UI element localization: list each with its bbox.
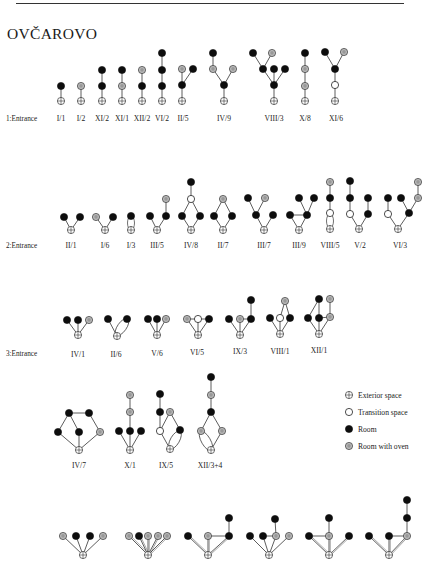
oven-node-icon [178,65,185,72]
oven-node-icon [403,532,410,539]
access-graph: IV/8 [178,178,203,250]
room-node-icon [156,408,163,415]
transition-node-icon [326,209,333,216]
access-graph: III/7 [244,194,276,250]
graph-label: IV/1 [71,350,85,359]
graph-label: VIII/3 [265,114,284,123]
exterior-node-icon [325,551,332,558]
exterior-node-icon [331,97,338,104]
room-node-icon [138,82,145,89]
legend: Exterior spaceTransition spaceRoomRoom w… [345,391,408,451]
transition-node-icon [331,81,338,88]
access-graph: VI/2 [155,49,169,123]
graph-edges [369,500,408,556]
exterior-node-icon [219,226,226,233]
room-node-icon [127,212,134,219]
oven-node-icon [96,428,103,435]
legend-item-transition: Transition space [345,408,408,417]
room-node-icon [304,314,311,321]
access-graph: VI/5 [183,315,212,357]
room-node-icon [156,390,163,397]
oven-node-icon [163,532,170,539]
room-node-icon [158,82,165,89]
oven-node-icon [272,532,279,539]
access-graph [59,532,106,558]
exterior-node-icon [74,331,81,338]
oven-node-icon [183,315,190,322]
graph-edges [388,182,418,229]
room-node-icon [109,213,116,220]
room-node-icon [246,532,253,539]
room-node-icon [158,66,165,73]
room-node-icon [207,373,214,380]
room-node-icon [54,428,61,435]
legend-item-oven: Room with oven [345,442,408,451]
room-node-icon [196,212,203,219]
transition-node-icon [346,210,353,217]
legend-label: Room [358,425,377,434]
exterior-node-icon [79,551,86,558]
oven-node-icon [162,195,169,202]
room-node-icon [178,81,185,88]
access-graph: X/8 [299,49,311,123]
graph-label: II/6 [111,350,122,359]
graph-label: VIII/1 [271,347,290,356]
access-graph [365,496,410,558]
room-node-icon [270,81,277,88]
graph-label: VI/2 [155,114,169,123]
room-node-icon [259,65,266,72]
room-node-icon [74,316,81,323]
room-node-icon [158,49,165,56]
graph-label: V/6 [151,349,163,358]
exterior-node-icon [98,97,105,104]
access-graph: II/5 [178,65,197,123]
oven-node-icon [340,48,347,55]
exterior-node-icon [265,551,272,558]
room-node-icon [85,409,92,416]
graph-label: I/3 [127,241,136,250]
graph-label: VIII/5 [321,241,340,250]
room-node-icon [305,532,312,539]
exterior-node-icon [194,331,201,338]
graph-label: II/5 [178,114,189,123]
access-graph [305,514,352,558]
room-node-icon [60,213,67,220]
oven-node-icon [85,316,92,323]
oven-node-icon [229,65,236,72]
access-graph: VI/3 [384,178,421,250]
exterior-node-icon [326,225,333,232]
exterior-node-icon [204,551,211,558]
room-node-icon [153,315,160,322]
access-graph [125,532,170,558]
oven-node-icon [166,408,173,415]
access-graph: IX/5 [156,390,183,470]
room-node-icon [345,425,352,432]
room-node-icon [321,48,328,55]
access-graph [246,515,292,558]
room-node-icon [144,315,151,322]
room-node-icon [295,194,302,201]
access-graph: X/1 [115,391,144,470]
room-node-icon [286,211,293,218]
room-node-icon [57,82,64,89]
exterior-node-icon [178,97,185,104]
graph-edges [350,181,368,229]
room-node-icon [301,49,308,56]
access-graph: II/6 [104,315,131,359]
room-node-icon [225,315,232,322]
access-graph: XII/2 [134,66,151,123]
exterior-node-icon [345,391,352,398]
exterior-node-icon [77,97,84,104]
oven-node-icon [325,532,332,539]
row-label: 2:Entrance [6,242,37,250]
oven-node-icon [138,66,145,73]
access-graph: XII/1 [304,295,333,355]
room-node-icon [403,514,410,521]
room-node-icon [76,213,83,220]
access-graph-diagram: 1:Entrance2:Entrance3:Entrance I/1I/2XI/… [0,0,443,562]
graph-label: II/7 [218,241,229,250]
graph-label: I/2 [77,114,86,123]
oven-node-icon [345,442,352,449]
graph-label: XI/2 [95,114,109,123]
room-node-icon [325,514,332,521]
